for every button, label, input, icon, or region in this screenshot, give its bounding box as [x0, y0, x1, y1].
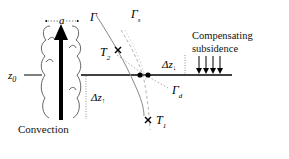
updraft-arrow [54, 24, 68, 120]
gamma-d-label: Γd [171, 83, 183, 100]
dz-upper-label: Δz↓ [161, 58, 176, 72]
z0-label: z0 [7, 69, 16, 84]
convection-label: Convection [18, 124, 69, 135]
gamma-d-line [117, 55, 168, 88]
t1-label: T1 [156, 113, 166, 130]
compensating-label: Compensating [192, 31, 253, 42]
convection-schematic: z0 a Δz↑ Γ Γs Γd T2 T1 [0, 0, 289, 159]
intersection-dot-1 [137, 72, 142, 77]
gamma-label: Γ [89, 10, 98, 24]
subsidence-label: subsidence [192, 44, 238, 55]
t2-label: T2 [100, 45, 111, 62]
intersection-dot-2 [145, 72, 150, 77]
gamma-s-curve [121, 30, 150, 130]
dz-lower-label: Δz↑ [90, 91, 105, 105]
subsidence-arrows [199, 56, 220, 71]
t1-marker [145, 117, 151, 123]
cloud-width-label: a [59, 14, 65, 26]
gamma-s-label: Γs [130, 7, 141, 24]
